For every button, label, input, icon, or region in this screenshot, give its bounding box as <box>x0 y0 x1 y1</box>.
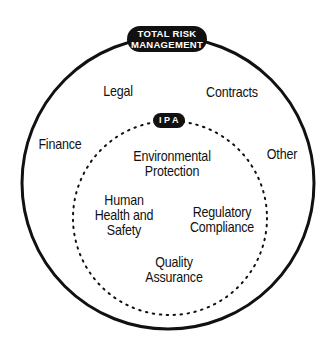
hhs-line3: Safety <box>91 223 156 238</box>
label-other: Other <box>265 147 299 162</box>
reg-line1: Regulatory <box>186 205 258 220</box>
env-line1: Environmental <box>129 149 215 164</box>
env-line2: Protection <box>129 164 215 179</box>
trm-label-line1: TOTAL RISK <box>127 28 207 39</box>
reg-line2: Compliance <box>186 220 258 235</box>
total-risk-management-circle <box>22 37 314 329</box>
label-human-health-safety: Human Health and Safety <box>91 193 156 238</box>
label-environmental-protection: Environmental Protection <box>129 149 215 179</box>
label-finance: Finance <box>38 137 83 152</box>
total-risk-management-badge: TOTAL RISK MANAGEMENT <box>127 26 207 52</box>
label-contracts: Contracts <box>199 85 264 100</box>
label-regulatory-compliance: Regulatory Compliance <box>186 205 258 235</box>
ipa-label: IPA <box>159 115 181 125</box>
risk-management-diagram: TOTAL RISK MANAGEMENT IPA Legal Contract… <box>0 0 333 353</box>
ipa-badge: IPA <box>153 113 185 128</box>
qa-line1: Quality <box>140 255 209 270</box>
label-legal: Legal <box>99 84 137 99</box>
label-quality-assurance: Quality Assurance <box>140 255 209 285</box>
hhs-line1: Human <box>91 193 156 208</box>
trm-label-line2: MANAGEMENT <box>127 39 207 50</box>
hhs-line2: Health and <box>91 208 156 223</box>
qa-line2: Assurance <box>140 270 209 285</box>
